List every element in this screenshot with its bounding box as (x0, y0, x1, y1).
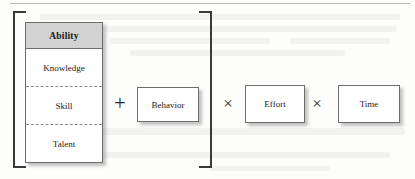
plus-operator-icon: + (111, 93, 129, 114)
ability-row-skill: Skill (26, 86, 102, 124)
ability-table: Ability Knowledge Skill Talent (25, 22, 103, 163)
page-top-rule (10, 3, 410, 4)
ability-row-knowledge: Knowledge (26, 49, 102, 86)
multiply-operator-icon-1: × (219, 95, 237, 112)
page-bleed-line (290, 38, 390, 44)
page-bleed-line (95, 152, 390, 158)
page-bleed-line (40, 14, 400, 20)
ability-row-talent: Talent (26, 124, 102, 162)
term-box-behavior: Behavior (137, 87, 199, 122)
page-bleed-line (130, 50, 345, 56)
page-bleed-line (105, 26, 397, 32)
figure-canvas: Ability Knowledge Skill Talent + Behavio… (0, 0, 415, 179)
term-box-time: Time (338, 85, 400, 123)
page-bleed-line (210, 166, 330, 171)
multiply-operator-icon-2: × (308, 95, 326, 112)
term-box-effort: Effort (245, 85, 305, 123)
ability-table-header: Ability (26, 23, 102, 49)
page-bleed-line (110, 38, 270, 44)
page-bleed-line (60, 128, 405, 135)
close-bracket (199, 11, 212, 168)
